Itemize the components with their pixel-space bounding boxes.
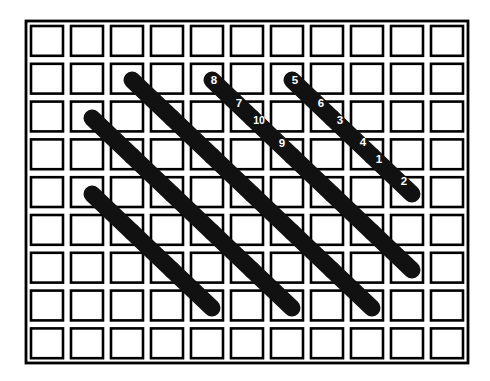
grid-cell bbox=[391, 64, 423, 94]
grid-cell bbox=[71, 215, 103, 245]
grid-cell bbox=[271, 102, 303, 132]
grid-cell bbox=[431, 139, 463, 169]
grid-cell bbox=[311, 139, 343, 169]
grid-cell bbox=[191, 26, 223, 56]
grid-cell bbox=[71, 328, 103, 358]
grid-cell bbox=[391, 215, 423, 245]
grid-cell bbox=[311, 26, 343, 56]
grid-cell bbox=[151, 64, 183, 94]
grid-cell bbox=[311, 64, 343, 94]
grid-cell bbox=[311, 291, 343, 321]
grid-cell bbox=[151, 139, 183, 169]
grid-cell bbox=[351, 253, 383, 283]
grid-cell bbox=[31, 253, 63, 283]
grid-cell bbox=[231, 328, 263, 358]
grid-cell bbox=[231, 64, 263, 94]
domino-number-label: 7 bbox=[236, 97, 242, 109]
grid-cell bbox=[431, 253, 463, 283]
grid-cell bbox=[231, 291, 263, 321]
grid-cell bbox=[231, 139, 263, 169]
grid-cell bbox=[431, 64, 463, 94]
grid-cell bbox=[311, 215, 343, 245]
grid-cell bbox=[351, 26, 383, 56]
grid-cell bbox=[31, 139, 63, 169]
grid-cell bbox=[31, 26, 63, 56]
grid-cell bbox=[231, 215, 263, 245]
domino-number-label: 6 bbox=[318, 97, 324, 109]
grid-cell bbox=[191, 253, 223, 283]
grid-cell bbox=[151, 26, 183, 56]
grid-cell bbox=[151, 328, 183, 358]
grid-cell bbox=[351, 64, 383, 94]
domino-number-label: 2 bbox=[401, 175, 407, 187]
grid-cell bbox=[71, 26, 103, 56]
grid-cell bbox=[191, 177, 223, 207]
grid-cell bbox=[431, 328, 463, 358]
domino-number-label: 9 bbox=[279, 137, 285, 149]
grid-cell bbox=[391, 139, 423, 169]
grid-cell bbox=[71, 291, 103, 321]
grid-cell bbox=[111, 328, 143, 358]
grid-cell bbox=[271, 253, 303, 283]
grid-cell bbox=[351, 177, 383, 207]
grid-cell bbox=[71, 253, 103, 283]
grid-cell bbox=[431, 102, 463, 132]
grid-cell bbox=[431, 26, 463, 56]
grid-cell bbox=[431, 215, 463, 245]
grid-cell bbox=[111, 253, 143, 283]
grid-cell bbox=[191, 102, 223, 132]
grid-cell bbox=[31, 291, 63, 321]
domino-number-label: 5 bbox=[292, 74, 299, 86]
grid-cell bbox=[31, 102, 63, 132]
grid-cell bbox=[111, 102, 143, 132]
grid-cell bbox=[431, 291, 463, 321]
grid-cell bbox=[271, 177, 303, 207]
grid-cell bbox=[31, 215, 63, 245]
grid-cell bbox=[191, 328, 223, 358]
grid-cell bbox=[351, 328, 383, 358]
grid-cell bbox=[391, 26, 423, 56]
grid-cell bbox=[311, 328, 343, 358]
grid-cell bbox=[391, 328, 423, 358]
diagram-figure: 87561093412 bbox=[0, 0, 490, 381]
grid-cell bbox=[231, 26, 263, 56]
domino-number-label: 10 bbox=[253, 114, 265, 126]
grid-cell bbox=[391, 102, 423, 132]
domino-grid-svg: 87561093412 bbox=[0, 0, 490, 381]
grid-cell bbox=[151, 215, 183, 245]
grid-cell bbox=[31, 328, 63, 358]
domino-number-label: 4 bbox=[360, 136, 367, 148]
domino-number-label: 8 bbox=[211, 74, 218, 86]
grid-cell bbox=[271, 328, 303, 358]
grid-cell bbox=[111, 26, 143, 56]
domino-number-label: 3 bbox=[337, 114, 343, 126]
grid-cell bbox=[431, 177, 463, 207]
domino-number-label: 1 bbox=[376, 153, 383, 165]
grid-cell bbox=[71, 64, 103, 94]
grid-cell bbox=[151, 291, 183, 321]
grid-cell bbox=[31, 177, 63, 207]
grid-cell bbox=[351, 102, 383, 132]
grid-cell bbox=[31, 64, 63, 94]
grid-cell bbox=[271, 26, 303, 56]
grid-cell bbox=[111, 291, 143, 321]
grid-cell bbox=[111, 177, 143, 207]
grid-cell bbox=[71, 139, 103, 169]
grid-cell bbox=[391, 291, 423, 321]
